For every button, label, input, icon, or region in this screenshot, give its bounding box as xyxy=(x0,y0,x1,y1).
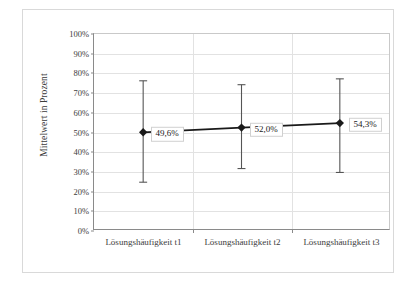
y-axis-tick-label: 60% xyxy=(73,108,89,118)
data-point-label: 49,6% xyxy=(151,127,184,141)
data-point-marker xyxy=(237,123,245,131)
y-axis-tick-label: 20% xyxy=(73,187,89,197)
data-point-label: 52,0% xyxy=(250,122,283,136)
plot-area: 0%10%20%30%40%50%60%70%80%90%100% Lösung… xyxy=(93,33,390,230)
y-axis-tick-label: 70% xyxy=(73,88,89,98)
x-axis-tick-mark xyxy=(292,229,293,233)
data-point-label: 54,3% xyxy=(349,118,382,132)
y-axis-title: Mittelwert in Prozent xyxy=(39,50,49,180)
chart-figure: Mittelwert in Prozent 0%10%20%30%40%50%6… xyxy=(22,9,394,273)
x-axis-category-label: Lösungshäufigkeit t2 xyxy=(204,237,280,247)
data-point-marker xyxy=(336,119,344,127)
y-axis-tick-label: 50% xyxy=(73,128,89,138)
y-axis-tick-label: 80% xyxy=(73,68,89,78)
y-axis-tick-label: 0% xyxy=(78,226,89,236)
y-axis-tick-label: 40% xyxy=(73,147,89,157)
x-axis-tick-mark xyxy=(193,229,194,233)
data-point-marker xyxy=(139,128,147,136)
y-axis-tick-mark xyxy=(91,231,94,232)
y-axis-tick-label: 30% xyxy=(73,167,89,177)
series-graphics xyxy=(94,34,389,229)
y-axis-tick-label: 10% xyxy=(73,206,89,216)
y-axis-tick-label: 90% xyxy=(73,49,89,59)
x-axis-category-label: Lösungshäufigkeit t1 xyxy=(105,237,181,247)
x-axis-category-label: Lösungshäufigkeit t3 xyxy=(303,237,379,247)
y-axis-tick-label: 100% xyxy=(69,29,89,39)
